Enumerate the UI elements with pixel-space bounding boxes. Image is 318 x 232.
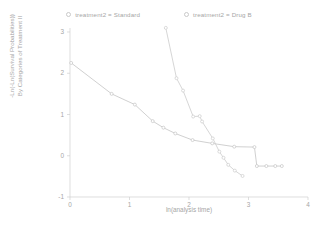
data-point-marker xyxy=(255,165,258,168)
y-axis-title: -Ln(-Ln(Survival Probabilities)) By Cate… xyxy=(8,0,24,136)
x-axis-title: ln(analysis time) xyxy=(70,206,308,213)
log-log-survival-chart: treatment2 = Standard treatment2 = Drug … xyxy=(0,0,318,232)
data-point-marker xyxy=(233,169,236,172)
data-point-marker xyxy=(174,132,177,135)
data-point-marker xyxy=(175,77,178,80)
data-point-marker xyxy=(253,146,256,149)
data-point-marker xyxy=(280,165,283,168)
plot-area: 3210-101234 xyxy=(0,0,318,232)
data-point-marker xyxy=(164,26,167,29)
data-point-marker xyxy=(218,150,221,153)
data-point-marker xyxy=(274,165,277,168)
data-point-marker xyxy=(227,163,230,166)
data-point-marker xyxy=(110,92,113,95)
data-point-marker xyxy=(265,165,268,168)
y-axis-title-line-2: By Categories of Treatment II xyxy=(16,0,24,136)
y-axis-tick-label: 0 xyxy=(60,152,64,159)
data-point-marker xyxy=(162,126,165,129)
data-point-marker xyxy=(191,139,194,142)
data-point-marker xyxy=(151,120,154,123)
data-point-marker xyxy=(133,103,136,106)
data-point-marker xyxy=(192,115,195,118)
y-axis-tick-label: 1 xyxy=(60,111,64,118)
y-axis-tick-label: 2 xyxy=(60,69,64,76)
y-axis-tick-label: 3 xyxy=(60,28,64,35)
data-point-marker xyxy=(182,89,185,92)
data-point-marker xyxy=(70,61,73,64)
data-point-marker xyxy=(201,120,204,123)
data-point-marker xyxy=(241,174,244,177)
data-point-marker xyxy=(211,142,214,145)
y-axis-tick-label: -1 xyxy=(58,193,64,200)
data-point-marker xyxy=(211,137,214,140)
y-axis-title-line-1: -Ln(-Ln(Survival Probabilities)) xyxy=(8,0,16,136)
data-point-marker xyxy=(198,115,201,118)
data-point-marker xyxy=(222,156,225,159)
data-point-marker xyxy=(233,145,236,148)
series-line-drug-b xyxy=(166,28,243,176)
